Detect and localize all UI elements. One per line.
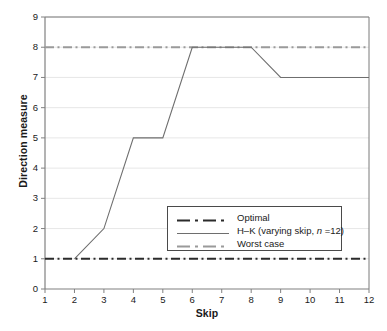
x-tick-label: 5	[151, 295, 175, 305]
x-tick-label: 11	[328, 295, 352, 305]
legend-item-hk: H–K (varying skip, n =12)	[168, 224, 341, 236]
y-axis-title: Direction measure	[17, 61, 29, 221]
legend-item-worst-case: Worst case	[168, 237, 341, 249]
chart-plot-area	[0, 0, 387, 331]
legend-label-optimal: Optimal	[237, 212, 270, 223]
legend-item-optimal: Optimal	[168, 211, 341, 223]
x-tick-label: 2	[62, 295, 86, 305]
legend-label-hk: H–K (varying skip, n =12)	[237, 225, 344, 236]
legend-label-hk-suffix: =12)	[322, 225, 344, 236]
x-tick-label: 6	[180, 295, 204, 305]
x-tick-label: 12	[357, 295, 381, 305]
y-tick-label: 1	[18, 254, 38, 264]
y-tick-label: 8	[18, 42, 38, 52]
legend-label-worst-case: Worst case	[237, 238, 284, 249]
legend-line-worst-case-icon	[176, 241, 230, 252]
x-tick-label: 8	[239, 295, 263, 305]
x-tick-label: 7	[210, 295, 234, 305]
x-tick-label: 4	[121, 295, 145, 305]
legend-label-hk-prefix: H–K (varying skip,	[237, 225, 317, 236]
legend-swatch-optimal	[176, 212, 230, 223]
x-tick-label: 1	[33, 295, 57, 305]
x-tick-label: 9	[269, 295, 293, 305]
x-axis-title: Skip	[45, 307, 369, 319]
y-tick-label: 0	[18, 284, 38, 294]
y-tick-label: 9	[18, 12, 38, 22]
chart-legend: Optimal H–K (varying skip, n =12) Worst …	[167, 206, 342, 251]
legend-swatch-hk	[176, 225, 230, 236]
chart-figure: 0123456789 123456789101112 Direction mea…	[0, 0, 387, 331]
x-tick-label: 3	[92, 295, 116, 305]
y-tick-label: 2	[18, 224, 38, 234]
x-tick-label: 10	[298, 295, 322, 305]
legend-swatch-worst-case	[176, 238, 230, 249]
